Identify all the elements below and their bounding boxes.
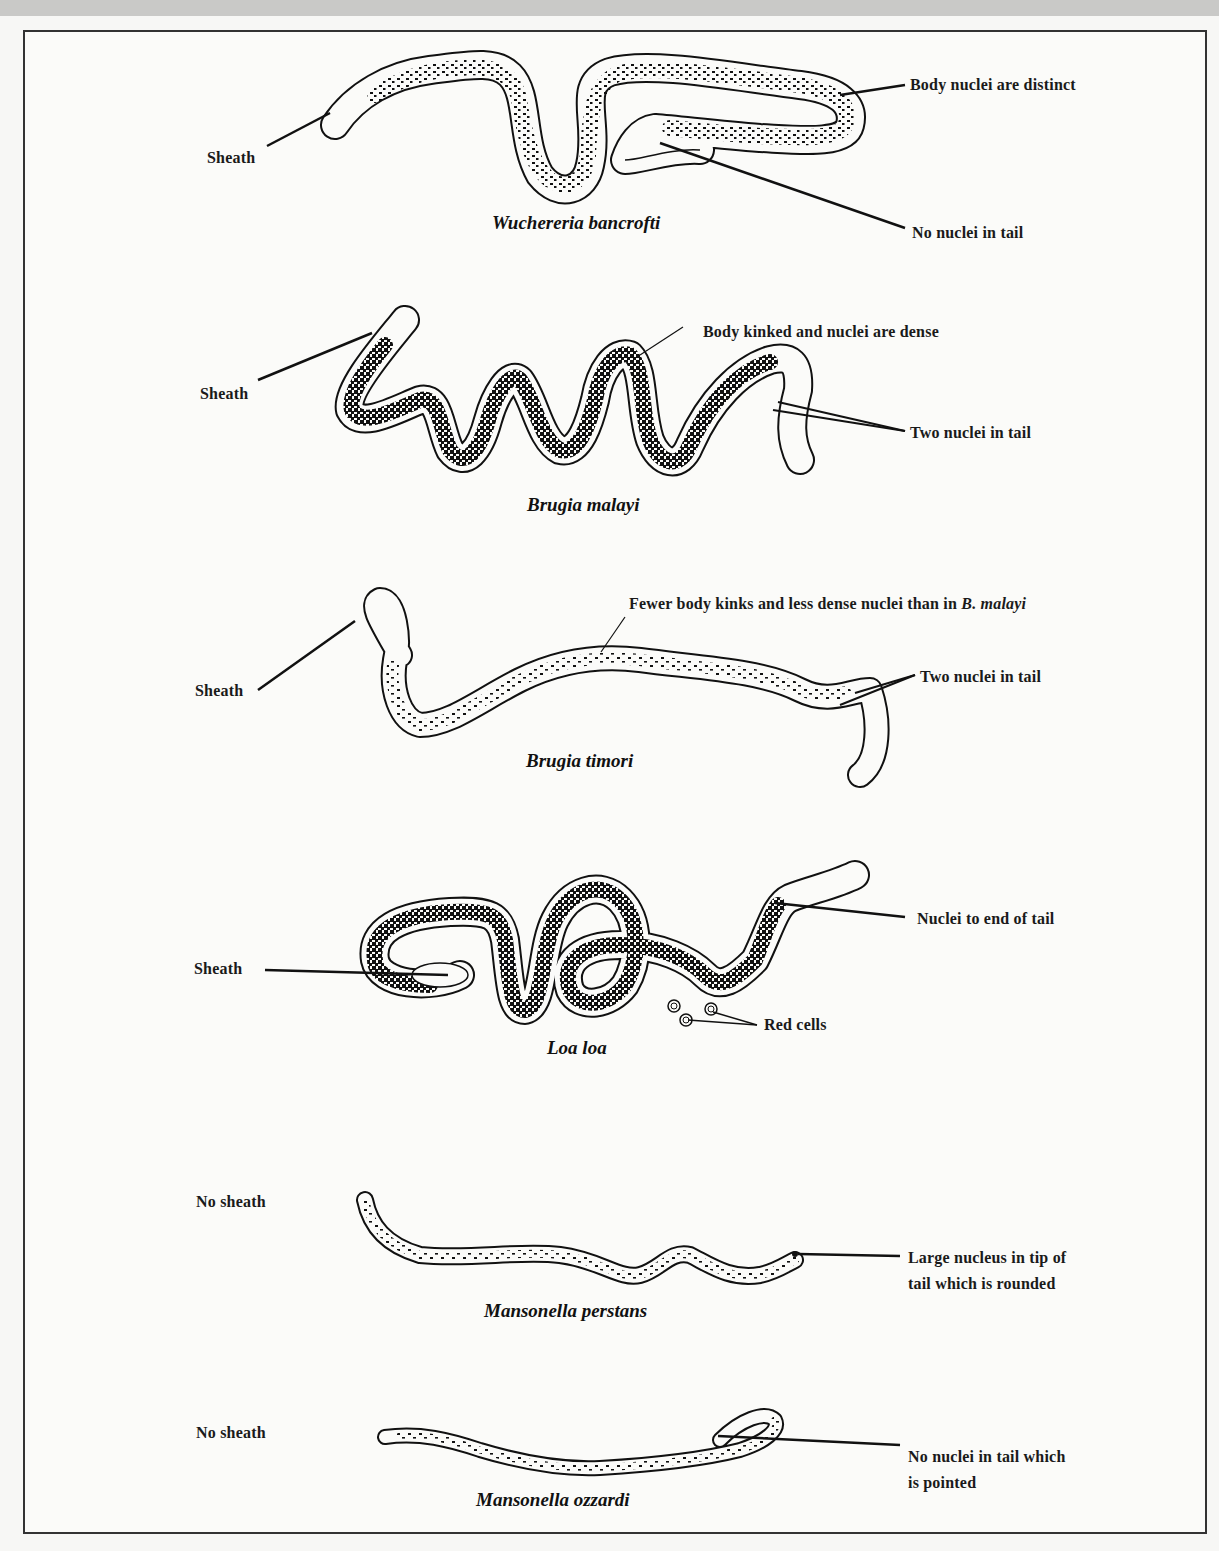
label-timori-body: Fewer body kinks and less dense nuclei t… [629,595,1026,613]
label-perstans-tail-line1: Large nucleus in tip of [908,1245,1128,1271]
label-ozzardi-tail: No nuclei in tail which is pointed [908,1444,1128,1496]
species-name-loa-loa: Loa loa [547,1037,607,1059]
label-perstans-tail: Large nucleus in tip of tail which is ro… [908,1245,1128,1297]
species-name-brugia-timori: Brugia timori [526,750,633,772]
species-name-wuchereria-bancrofti: Wuchereria bancrofti [492,212,660,234]
label-wuchereria-tail: No nuclei in tail [912,224,1023,242]
species-name-mansonella-ozzardi: Mansonella ozzardi [476,1489,630,1511]
label-malayi-tail: Two nuclei in tail [910,424,1031,442]
worm-mansonella-ozzardi [385,1416,776,1468]
label-malayi-body: Body kinked and nuclei are dense [703,323,939,341]
label-perstans-no-sheath: No sheath [196,1193,266,1211]
worm-wuchereria-bancrofti [335,65,851,189]
label-timori-body-text: Fewer body kinks and less dense nuclei t… [629,595,961,612]
label-ozzardi-tail-line2: is pointed [908,1470,1128,1496]
label-ozzardi-tail-line1: No nuclei in tail which [908,1444,1128,1470]
label-perstans-tail-line2: tail which is rounded [908,1271,1128,1297]
label-timori-sheath: Sheath [195,682,243,700]
label-ozzardi-no-sheath: No sheath [196,1424,266,1442]
label-loa-tail: Nuclei to end of tail [917,910,1055,928]
label-malayi-sheath: Sheath [200,385,248,403]
species-name-mansonella-perstans: Mansonella perstans [484,1300,647,1322]
worm-brugia-timori [376,600,876,775]
worm-loa-loa [374,875,855,1026]
label-wuchereria-sheath: Sheath [207,149,255,167]
worm-mansonella-perstans [365,1200,798,1276]
label-timori-body-species: B. malayi [961,595,1026,612]
label-loa-sheath: Sheath [194,960,242,978]
label-timori-tail: Two nuclei in tail [920,668,1041,686]
label-loa-red-cells: Red cells [764,1016,827,1034]
worm-brugia-malayi [350,320,800,461]
species-name-brugia-malayi: Brugia malayi [527,494,639,516]
label-wuchereria-body-nuclei: Body nuclei are distinct [910,76,1076,94]
